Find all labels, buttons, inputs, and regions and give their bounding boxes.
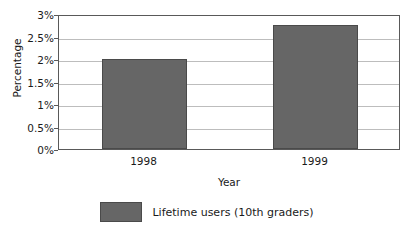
- legend-swatch-lifetime-users: [100, 202, 142, 222]
- y-axis-tick-label: 0.5%: [2, 123, 54, 134]
- bars-layer: [59, 16, 399, 149]
- y-axis-tick-label: 1.5%: [2, 78, 54, 89]
- y-axis-tick-mark: [54, 150, 58, 151]
- y-axis-tick-label: 2.5%: [2, 33, 54, 44]
- y-axis: Percentage 0%0.5%1%1.5%2%2.5%3%: [0, 0, 54, 230]
- y-axis-tick-label: 2%: [2, 55, 54, 66]
- x-axis-tick-label: 1999: [275, 155, 355, 167]
- x-axis-title: Year: [58, 176, 400, 188]
- bar-1998: [102, 59, 187, 149]
- y-axis-tick-label: 1%: [2, 100, 54, 111]
- legend-label-lifetime-users: Lifetime users (10th graders): [152, 206, 313, 219]
- y-axis-tick-label: 3%: [2, 10, 54, 21]
- y-axis-tick-label: 0%: [2, 145, 54, 156]
- legend: Lifetime users (10th graders): [0, 202, 414, 222]
- plot-area: [58, 15, 400, 150]
- bar-chart: Percentage 0%0.5%1%1.5%2%2.5%3% 19981999…: [0, 0, 414, 230]
- x-axis-tick-label: 1998: [104, 155, 184, 167]
- bar-1999: [273, 25, 358, 149]
